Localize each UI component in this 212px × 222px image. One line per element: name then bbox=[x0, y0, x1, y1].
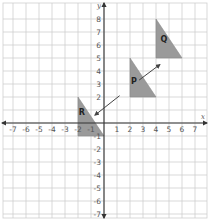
y-tick-label: -4 bbox=[94, 171, 102, 180]
y-tick-label: 6 bbox=[96, 41, 101, 50]
x-tick-label: -5 bbox=[35, 125, 43, 134]
y-tick-label: -3 bbox=[94, 158, 102, 167]
x-tick-label: -4 bbox=[48, 125, 56, 134]
translation-arrow bbox=[139, 65, 160, 81]
coordinate-plane: -7-6-5-4-3-2-112345678765432-1-2-3-4-5-6… bbox=[0, 0, 212, 222]
y-tick-label: -1 bbox=[94, 132, 102, 141]
y-tick-label: 4 bbox=[96, 67, 101, 76]
triangle-label-r: R bbox=[79, 108, 85, 117]
y-tick-label: -5 bbox=[94, 184, 102, 193]
x-tick-label: 6 bbox=[180, 125, 185, 134]
y-tick-label: 7 bbox=[96, 28, 101, 37]
y-tick-label: -7 bbox=[94, 210, 102, 219]
x-tick-label: -3 bbox=[61, 125, 69, 134]
x-tick-label: -6 bbox=[22, 125, 30, 134]
x-tick-label: 4 bbox=[154, 125, 159, 134]
x-tick-label: 2 bbox=[128, 125, 133, 134]
x-tick-label: 1 bbox=[115, 125, 120, 134]
y-tick-label: -6 bbox=[94, 197, 102, 206]
axes bbox=[2, 3, 207, 218]
x-axis-label: x bbox=[201, 113, 205, 121]
shape-labels: QPR bbox=[79, 35, 168, 117]
x-tick-label: -2 bbox=[74, 125, 82, 134]
x-tick-label: 5 bbox=[167, 125, 172, 134]
triangle-label-q: Q bbox=[160, 35, 167, 44]
y-tick-label: 5 bbox=[96, 54, 101, 63]
x-tick-label: 7 bbox=[193, 125, 198, 134]
x-tick-label: 3 bbox=[141, 125, 146, 134]
y-tick-label: 2 bbox=[96, 93, 101, 102]
x-tick-label: -7 bbox=[9, 125, 17, 134]
grid-lines bbox=[3, 3, 207, 218]
triangle-label-p: P bbox=[131, 77, 137, 86]
y-tick-label: -2 bbox=[94, 145, 102, 154]
y-tick-label: 8 bbox=[96, 15, 101, 24]
y-tick-label: 3 bbox=[96, 80, 101, 89]
